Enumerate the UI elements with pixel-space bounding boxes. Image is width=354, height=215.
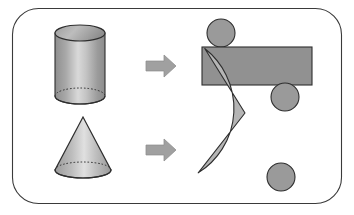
cone-solid [55,117,111,178]
row-cylinder [55,19,312,111]
bottom-base-circle [271,83,299,111]
base-circle [267,163,295,191]
right-arrow-icon [146,139,176,161]
top-base-circle [207,19,235,47]
arrow-cylinder-to-net [146,55,176,77]
arrow-cone-to-net [146,139,176,161]
cone-lateral-surface [55,117,111,178]
cylinder-solid [55,25,105,104]
cylinder-top-base-ellipse [55,25,105,41]
right-arrow-icon [146,55,176,77]
diagram-canvas: Nets of three-dimensional solids Two row… [0,0,354,215]
cylinder-lateral-surface [55,33,105,104]
geometry-nets-diagram [0,0,354,215]
